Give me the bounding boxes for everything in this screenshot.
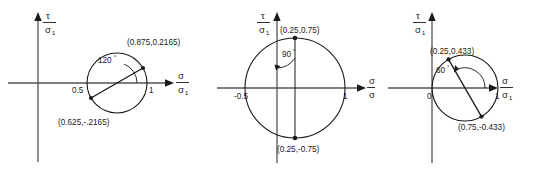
panel-2-xtick-0: -0.5: [234, 92, 249, 101]
panel-3-x-axis: [388, 84, 498, 91]
mohr-circle-figure: τ σ 1 σ σ 1 120 ° 0.5 1 (0.875,0.2165): [0, 0, 550, 171]
panel-1-y-axis-label: τ σ 1: [43, 10, 56, 36]
panel-3-sigma-denominator-sub: 1: [422, 30, 425, 36]
panel-3-point-upper-marker: [446, 57, 450, 61]
panel-1-point-label-upper: (0.875,0.2165): [127, 38, 181, 47]
panel-1-angle-arc: [124, 64, 137, 83]
panel-3-sigma-denominator: σ: [415, 24, 421, 35]
panel-2-xtick-1: 1: [343, 92, 348, 101]
panel-1-sigma-denominator-sub: 1: [52, 30, 55, 36]
panel-3-tau-symbol: τ: [416, 10, 420, 21]
panel-3-sigma-denominator-2: σ: [502, 89, 508, 100]
panel-3-angle-degree: °: [447, 64, 449, 70]
panel-2-angle-label: 90 °: [282, 48, 295, 59]
panel-2-angle-degree: °: [293, 48, 295, 54]
panel-2-sigma-denominator-sub: 1: [266, 30, 269, 36]
panel-3-sigma-denominator-2-sub: 1: [509, 95, 512, 101]
panel-3-angle-value: 60: [436, 66, 446, 75]
panel-1-sigma-denominator: σ: [45, 24, 51, 35]
panel-3-xtick-0: 0: [427, 92, 432, 101]
mohr-circle-panel-1: τ σ 1 σ σ 1 120 ° 0.5 1 (0.875,0.2165): [0, 0, 190, 171]
panel-1-angle-value: 120: [98, 56, 112, 65]
panel-3-x-axis-label: σ σ 1: [500, 75, 513, 101]
mohr-circle-panel-3: τ σ 1 σ σ 1 60 ° 0 1 (0.25,0.433) (0.75,…: [370, 0, 550, 171]
panel-1-point-lower-marker: [89, 96, 93, 100]
panel-3-y-axis-label: τ σ 1: [413, 10, 426, 36]
panel-3-point-label-upper: (0.25,0.433): [430, 47, 474, 56]
panel-1-xtick-0: 0.5: [72, 86, 84, 95]
panel-1-xtick-1: 1: [149, 86, 154, 95]
panel-1-sigma-symbol: σ: [178, 70, 184, 81]
panel-1-point-upper-marker: [141, 66, 145, 70]
panel-2-y-axis-label: τ σ 1: [257, 10, 270, 36]
panel-2-tau-symbol: τ: [261, 10, 265, 21]
panel-1-y-axis: [34, 12, 41, 162]
panel-3-point-label-lower: (0.75,-0.433): [458, 123, 505, 132]
panel-1-angle-degree: °: [114, 54, 116, 60]
panel-2-x-axis: [217, 84, 366, 91]
panel-3-point-lower-marker: [479, 115, 483, 119]
panel-2-point-label-lower: (0.25,-0.75): [277, 145, 320, 154]
panel-2-point-label-upper: (0.25,0.75): [280, 26, 320, 35]
panel-1-point-label-lower: (0.625,-.2165): [58, 118, 110, 127]
panel-3-angle-label: 60 °: [436, 64, 449, 75]
panel-3-angle-arrow: [454, 65, 459, 73]
panel-2-point-lower-marker: [293, 136, 298, 141]
panel-1-tau-symbol: τ: [46, 10, 50, 21]
panel-2-sigma-denominator: σ: [259, 24, 265, 35]
panel-2-point-upper-marker: [293, 36, 298, 41]
panel-1-sigma-denominator-2: σ: [178, 84, 184, 95]
panel-3-xtick-1: 1: [495, 92, 500, 101]
mohr-circle-panel-2: τ σ 1 σ σ 1 90 ° -0.5 1 (0.25,0.75) (0.2…: [185, 0, 375, 171]
panel-1-angle-label: 120 °: [98, 54, 116, 65]
panel-3-sigma-symbol: σ: [502, 75, 508, 86]
panel-2-angle-value: 90: [282, 50, 292, 59]
